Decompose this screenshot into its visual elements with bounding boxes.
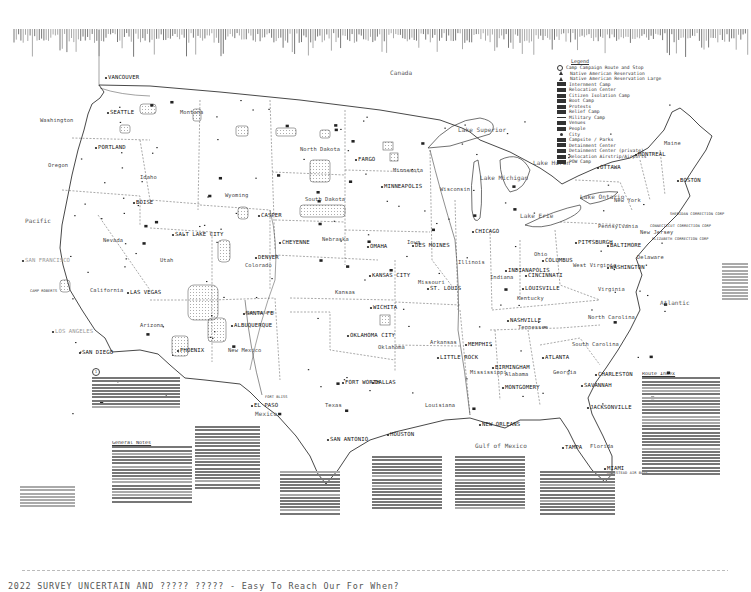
state-label: New Mexico — [228, 348, 261, 353]
legend-item-label: Camp Campaign Route and Stop — [566, 65, 643, 71]
legend-symbol-icon — [559, 71, 563, 75]
city-label: EL PASO — [254, 403, 278, 409]
legend-item-label: POW Camp — [569, 159, 591, 165]
reservations — [60, 104, 398, 356]
city-label: LOUISVILLE — [525, 286, 560, 292]
city-label: LOS ANGELES — [55, 329, 93, 335]
legend-symbol-icon — [557, 149, 566, 153]
legend-symbol-icon — [559, 77, 563, 81]
city-label: LAS VEGAS — [130, 290, 161, 296]
general-notes-title: General Notes — [112, 441, 192, 444]
side-notes-right — [722, 262, 748, 382]
legend: Legend Camp Campaign Route and StopNativ… — [557, 59, 707, 165]
note-block-1: 1 — [92, 368, 180, 423]
state-label: South Dakota — [305, 197, 345, 202]
label-canada: Canada — [390, 70, 412, 76]
city-label: BOSTON — [680, 178, 701, 184]
general-notes: General Notes — [112, 441, 192, 559]
label-lake-erie: Lake Erie — [520, 213, 553, 219]
route-line — [99, 30, 276, 370]
city-label: SALT LAKE CITY — [175, 232, 224, 238]
state-label: Nevada — [103, 238, 123, 243]
state-label: Arizona — [140, 323, 163, 328]
site-label: FORT BLISS — [265, 396, 288, 400]
side-notes-left — [20, 485, 75, 550]
note-block-5 — [455, 455, 525, 560]
city-label: CASPER — [261, 213, 282, 219]
state-label: Kansas — [335, 290, 355, 295]
note-block-4 — [372, 455, 442, 560]
state-label: Pennsylvania — [598, 224, 638, 229]
city-label: BOISE — [136, 200, 153, 206]
city-label: BIRMINGHAM — [495, 365, 530, 371]
state-label: California — [90, 288, 123, 293]
state-label: Montana — [180, 110, 203, 115]
state-label: Arkansas — [430, 340, 457, 345]
label-lake-michigan: Lake Michigan — [480, 175, 528, 181]
city-label: CHICAGO — [475, 229, 499, 235]
state-label: Indiana — [490, 275, 513, 280]
city-label: SAVANNAH — [584, 383, 612, 389]
city-label: MINNEAPOLIS — [384, 184, 422, 190]
note-number: 1 — [92, 368, 100, 376]
city-label: DENVER — [258, 255, 279, 261]
legend-symbol-icon — [560, 133, 563, 136]
legend-symbol-icon — [557, 94, 566, 98]
legend-symbol-icon — [557, 110, 566, 114]
city-label: PORTLAND — [98, 145, 126, 151]
city-label: DALLAS — [375, 380, 396, 386]
state-label: Idaho — [140, 175, 157, 180]
city-label: WASHINGTON — [610, 265, 645, 271]
legend-symbol-icon — [557, 99, 566, 103]
city-label: SEATTLE — [110, 110, 134, 116]
city-label: OKLAHOMA CITY — [350, 333, 395, 339]
city-label: VANCOUVER — [108, 75, 139, 81]
label-lake-superior: Lake Superior — [458, 127, 506, 133]
site-label: ELIZABETH CORRECTION CORP — [652, 238, 709, 242]
legend-symbol-icon — [557, 138, 566, 142]
lake-superior — [428, 118, 493, 148]
state-label: Kentucky — [517, 296, 544, 301]
legend-symbol-icon — [557, 143, 566, 147]
city-label: CHARLESTON — [598, 372, 633, 378]
city-label: OMAHA — [370, 244, 387, 250]
city-label: KANSAS CITY — [372, 273, 410, 279]
page-caption: 2022 SURVEY UNCERTAIN AND ????? ????? - … — [8, 581, 399, 591]
legend-item: POW Camp — [557, 159, 707, 165]
state-label: Oklahoma — [378, 345, 405, 350]
legend-symbol-icon — [557, 127, 566, 131]
site-label: SHERIDAN CORRECTION CORP — [670, 213, 724, 217]
city-label: OTTAWA — [600, 165, 621, 171]
state-label: Alabama — [505, 372, 528, 377]
city-label: NEW ORLEANS — [482, 422, 520, 428]
state-label: Minnesota — [393, 168, 423, 173]
city-label: ALBUQUERQUE — [234, 323, 272, 329]
state-label: Delaware — [637, 255, 664, 260]
city-label: CHEYENNE — [282, 240, 310, 246]
state-label: Mississippi — [470, 370, 507, 375]
city-label: HOUSTON — [390, 432, 414, 438]
state-label: Florida — [590, 444, 613, 449]
lake-michigan — [471, 160, 481, 221]
label-pacific: Pacific — [25, 218, 51, 224]
legend-symbol-icon — [557, 65, 563, 71]
state-label: North Carolina — [588, 315, 635, 320]
city-label: LITTLE ROCK — [440, 355, 478, 361]
site-label: CAMP SANTA FE — [245, 312, 274, 316]
city-label: DES MOINES — [415, 243, 450, 249]
legend-symbol-icon — [557, 160, 566, 164]
note-block-3 — [280, 470, 340, 560]
city-label: PITTSBURGH — [578, 240, 613, 246]
legend-symbol-icon — [557, 105, 566, 109]
state-label: New York — [614, 198, 641, 203]
legend-symbol-icon — [557, 121, 566, 125]
city-label: MEMPHIS — [468, 342, 492, 348]
state-label: Washington — [40, 118, 73, 123]
state-label: Oregon — [48, 163, 68, 168]
city-label: FARGO — [358, 157, 375, 163]
state-label: Wyoming — [225, 193, 248, 198]
city-label: SAN ANTONIO — [330, 437, 368, 443]
state-label: Tennessee — [518, 325, 548, 330]
state-label: South Carolina — [572, 342, 619, 347]
label-atlantic: Atlantic — [660, 300, 690, 306]
